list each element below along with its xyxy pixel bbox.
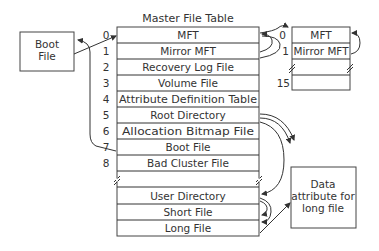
data-attribute-box: Data attribute for long file — [291, 167, 356, 228]
mft-row: 6 Allocation Bitmap File — [103, 125, 259, 139]
svg-text:8: 8 — [103, 157, 110, 169]
svg-text:0: 0 — [279, 29, 286, 41]
arrow-boot-to-mft — [74, 36, 116, 54]
svg-text:1: 1 — [103, 45, 110, 57]
svg-text:User Directory: User Directory — [150, 190, 226, 202]
svg-text:Allocation Bitmap File: Allocation Bitmap File — [122, 125, 254, 137]
arrow-userdir-to-short — [260, 201, 267, 215]
arrow-mirror-self-loop — [351, 33, 360, 54]
mft-title: Master File Table — [142, 12, 234, 25]
svg-text:MFT: MFT — [310, 29, 332, 41]
row-label: MFT — [177, 29, 199, 41]
svg-text:Long File: Long File — [165, 222, 211, 234]
svg-text:4: 4 — [103, 93, 110, 105]
svg-text:7: 7 — [103, 141, 110, 153]
svg-text:3: 3 — [103, 77, 110, 89]
svg-text:Recovery Log File: Recovery Log File — [142, 61, 234, 73]
svg-text:15: 15 — [277, 77, 290, 89]
arrow-long-to-data — [260, 203, 290, 233]
mft-row: 4 Attribute Definition Table — [103, 93, 259, 107]
arrow-root-to-userdir — [260, 122, 284, 194]
svg-text:Boot File: Boot File — [165, 141, 210, 153]
svg-text:Mirror MFT: Mirror MFT — [294, 45, 350, 57]
svg-text:Boot: Boot — [35, 38, 59, 50]
mirror-table: 0 MFT 1 Mirror MFT 15 — [277, 27, 353, 90]
mft-row: Long File — [165, 222, 211, 234]
svg-text:5: 5 — [103, 109, 110, 121]
svg-text:Data: Data — [310, 178, 335, 190]
svg-text:long file: long file — [302, 202, 344, 214]
svg-text:1: 1 — [282, 45, 289, 57]
svg-text:Root Directory: Root Directory — [150, 109, 226, 121]
boot-file-box: Boot File — [20, 32, 74, 71]
arrow-bootrow-to-bootbox — [78, 40, 116, 151]
mft-diagram: Master File Table 0 MFT 1 Mirror MFT 2 R… — [0, 0, 379, 251]
svg-text:2: 2 — [103, 61, 110, 73]
svg-text:Short File: Short File — [163, 206, 212, 218]
svg-text:6: 6 — [103, 125, 110, 137]
svg-text:attribute for: attribute for — [291, 190, 355, 202]
svg-text:Mirror MFT: Mirror MFT — [160, 45, 216, 57]
svg-text:Bad Cluster File: Bad Cluster File — [147, 157, 229, 169]
mft-table: 0 MFT 1 Mirror MFT 2 Recovery Log File 3… — [103, 27, 262, 236]
svg-text:Volume File: Volume File — [158, 77, 218, 89]
svg-text:File: File — [38, 50, 56, 62]
svg-text:Attribute Definition Table: Attribute Definition Table — [119, 93, 257, 105]
